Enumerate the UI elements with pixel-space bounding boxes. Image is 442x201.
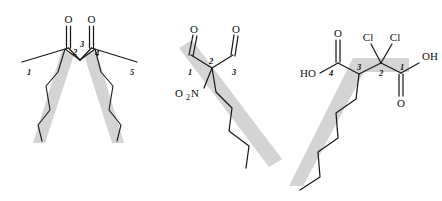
locant-3: 3 (79, 39, 85, 49)
locant-2-1: 1 (188, 67, 192, 77)
structure-1-group: O O 1 2 3 4 5 (22, 13, 137, 143)
atom-label-o-ald-right: O (232, 23, 240, 35)
atom-label-o-right: O (88, 13, 96, 25)
locant-3-3: 3 (356, 62, 362, 72)
structure-diagram-canvas: O O 1 2 3 4 5 (0, 0, 442, 201)
atom-label-o-acid-right: O (397, 97, 405, 109)
structure-2-highlight-band (179, 40, 282, 167)
atom-label-ho: HO (300, 67, 316, 79)
structure-3-group: O HO Cl Cl O OH 4 3 2 1 (289, 27, 438, 190)
locant-4: 4 (94, 48, 99, 58)
bond-c3-o-b (235, 36, 238, 56)
bond-c3-o-a (231, 35, 234, 55)
ketone-right: O (88, 13, 96, 48)
carboxylic-acid-left: O HO (300, 27, 342, 79)
highlight-band-right (84, 50, 124, 143)
structure-2-group: O O O 2 N 1 2 3 (175, 23, 282, 168)
locant-3-1: 1 (400, 62, 404, 72)
atom-label-nitro-o: O (175, 87, 183, 99)
locant-1: 1 (27, 67, 31, 77)
atom-label-cl-left: Cl (363, 31, 373, 43)
structure-1-highlight-bands (33, 50, 124, 143)
atom-label-cl-right: Cl (390, 31, 400, 43)
ketone-left: O (65, 13, 73, 48)
atom-label-nitro-sub: 2 (186, 93, 190, 102)
locant-2: 2 (72, 47, 78, 57)
highlight-band-diagonal (179, 40, 282, 167)
locant-2-3: 3 (231, 67, 237, 77)
bond-c2-c3 (212, 55, 233, 68)
atom-label-o-left: O (65, 13, 73, 25)
locant-3-4: 4 (328, 68, 333, 78)
nitro-group-label: O 2 N (175, 87, 199, 102)
atom-label-o-ald-left: O (190, 23, 198, 35)
atom-label-nitro-n: N (191, 87, 199, 99)
atom-label-o-acid-left: O (334, 27, 342, 39)
aldehyde-right: O (231, 23, 240, 56)
locant-5: 5 (130, 67, 135, 77)
atom-label-oh: OH (422, 50, 438, 62)
locant-2-2: 2 (208, 56, 214, 66)
locant-3-2: 2 (378, 68, 384, 78)
